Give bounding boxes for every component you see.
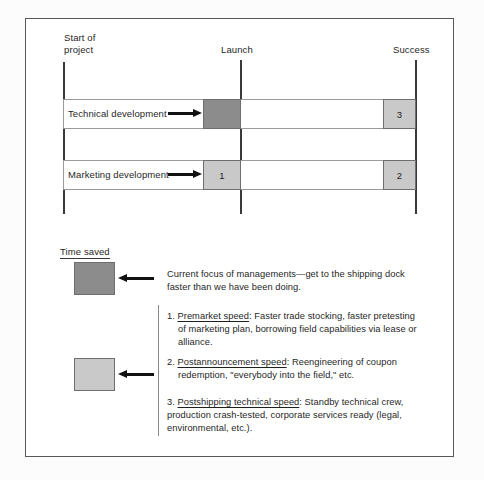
bar-row-label-marketing-development: Marketing development: [68, 169, 169, 180]
legend-list-item-3-term: Postshipping technical speed: [178, 397, 300, 407]
milestone-axis-success: [415, 60, 417, 214]
bar-segment-tech-postshipping: 3: [383, 99, 416, 129]
legend-swatch-dark: [74, 262, 115, 295]
bar-segment-tech-premarket: [203, 99, 241, 129]
arrow-icon-legend-light: [118, 370, 154, 379]
legend-list-item-2-term: Postannouncement speed: [178, 357, 287, 367]
bar-row-label-technical-development: Technical development: [68, 108, 167, 119]
legend-list-item-1-term: Premarket speed: [178, 311, 250, 321]
legend-note: Current focus of managements—get to the …: [167, 268, 429, 294]
milestone-axis-launch: [240, 60, 242, 214]
milestone-label-launch: Launch: [221, 44, 253, 56]
bar-segment-mktg-premarket: 1: [203, 160, 241, 190]
arrow-icon-legend-dark: [118, 274, 154, 283]
arrow-icon-marketing: [168, 170, 202, 179]
arrow-icon-technical: [168, 109, 202, 118]
legend-swatch-light: [74, 358, 115, 391]
legend-list-item-3-number: 3.: [167, 397, 175, 407]
legend-list-rule: [158, 305, 159, 436]
legend-list-item-1-number: 1.: [167, 311, 175, 321]
bar-segment-mktg-postannouncement: 2: [383, 160, 416, 190]
milestone-axis-start: [63, 62, 65, 214]
legend-list-item-2: 2. Postannouncement speed: Reengineering…: [167, 356, 425, 382]
figure-canvas: Start of project Launch Success 3 Techni…: [0, 0, 484, 480]
legend-list-item-2-number: 2.: [167, 357, 175, 367]
milestone-label-success: Success: [393, 44, 430, 56]
milestone-label-start: Start of project: [64, 32, 95, 55]
legend-list-item-1: 1. Premarket speed: Faster trade stockin…: [167, 310, 425, 350]
legend-list-item-3: 3. Postshipping technical speed: Standby…: [167, 396, 429, 436]
legend-title: Time saved: [60, 246, 110, 259]
